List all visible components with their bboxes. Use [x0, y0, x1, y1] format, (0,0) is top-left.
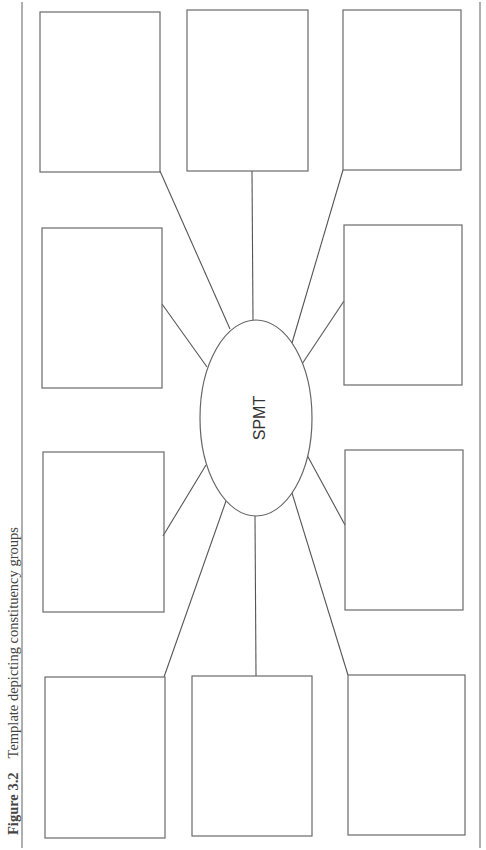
box-mid-upper-left: [42, 228, 162, 388]
box-bottom-center: [192, 676, 312, 836]
connector-top-left: [160, 171, 230, 329]
connector-top-right: [292, 170, 343, 343]
connector-bottom-center: [255, 516, 256, 676]
connector-mid-lower-right: [307, 455, 345, 525]
connector-bottom-left: [164, 501, 226, 677]
box-top-center: [187, 10, 308, 171]
box-bottom-right: [348, 675, 465, 835]
box-mid-lower-left: [43, 452, 164, 612]
center-node: SPMT: [200, 320, 312, 516]
figure-number: Figure 3.2: [5, 772, 21, 835]
constituency-diagram: SPMT: [0, 0, 486, 850]
spmt-label: SPMT: [251, 396, 268, 441]
box-top-right: [343, 10, 461, 170]
connector-mid-lower-left: [163, 465, 206, 536]
box-bottom-left: [45, 677, 165, 838]
connector-top-center: [252, 171, 253, 320]
figure-caption: Figure 3.2Template depicting constituenc…: [4, 527, 22, 835]
connector-mid-upper-right: [302, 301, 344, 364]
connector-bottom-right: [292, 493, 348, 675]
box-mid-upper-right: [344, 225, 462, 385]
figure-caption-text: Template depicting constituency groups: [5, 527, 21, 758]
box-mid-lower-right: [345, 450, 463, 610]
connector-mid-upper-left: [162, 304, 207, 367]
box-top-left: [40, 12, 160, 172]
